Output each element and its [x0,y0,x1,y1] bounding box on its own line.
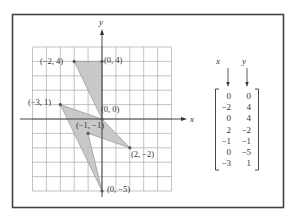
matrix-cell-y: 0 [247,91,252,101]
vertex-label-neg3-1: (−3, 1) [28,97,51,107]
matrix-cell-x: 0 [227,91,232,101]
matrix-cell-x: −2 [221,102,231,112]
figure: y x (0, 4) (−2, 4) (−3, 1) (0, 0) (−1, −… [0,0,292,215]
vertex-label-neg1-neg1: (−1, −1) [76,120,104,130]
vertex-point [100,189,103,192]
x-axis-label: x [189,114,194,124]
matrix-cell-x: −3 [221,158,231,168]
matrix-cell-x: −1 [221,136,231,146]
y-axis-label: y [98,17,103,27]
vertex-point [73,60,76,63]
matrix-cell-y: 4 [247,113,252,123]
matrix-cell-x: 2 [227,125,232,135]
matrix-cell-y: 1 [247,158,252,168]
vertex-label-neg2-4: (−2, 4) [40,56,63,66]
vertex-label-0-0: (0, 0) [101,104,120,114]
matrix-cell-y: −5 [241,147,251,157]
matrix-header-y: y [241,56,246,66]
vertex-label-0-neg5: (0, −5) [107,184,130,194]
figure-frame [13,15,284,208]
vertex-point [87,132,90,135]
vertex-label-0-4: (0, 4) [104,55,123,65]
matrix-cell-y: −1 [241,136,251,146]
matrix-cell-x: 0 [227,147,232,157]
matrix-header-x: x [215,56,220,66]
matrix-cell-y: −2 [241,125,251,135]
vertex-label-2-neg2: (2, −2) [131,149,154,159]
matrix-cell-y: 4 [247,102,252,112]
matrix-cell-x: 0 [227,113,232,123]
vertex-point [59,103,62,106]
